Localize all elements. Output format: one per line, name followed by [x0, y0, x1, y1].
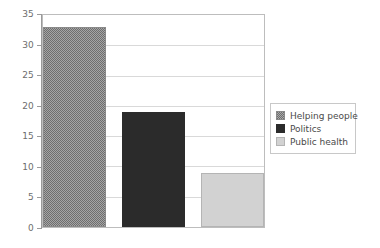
y-tick-mark-25 — [37, 75, 41, 76]
y-tick-label-0: 0 — [0, 224, 34, 233]
legend-swatch-icon-politics — [276, 124, 285, 133]
legend-swatch-icon-helping-people — [276, 111, 285, 120]
y-axis-line — [41, 14, 42, 229]
y-tick-label-25: 25 — [0, 71, 34, 80]
bar-public-health[interactable] — [201, 173, 264, 228]
y-tick-label-30: 30 — [0, 41, 34, 50]
legend-label-helping-people: Helping people — [290, 111, 358, 121]
plot-area — [42, 14, 265, 228]
bar-politics[interactable] — [122, 112, 185, 227]
y-tick-mark-0 — [37, 228, 41, 229]
y-tick-mark-5 — [37, 197, 41, 198]
y-tick-label-35: 35 — [0, 10, 34, 19]
legend-item-politics[interactable]: Politics — [276, 122, 349, 135]
chart-legend: Helping people Politics Public health — [270, 103, 356, 154]
legend-item-helping-people[interactable]: Helping people — [276, 109, 349, 122]
y-tick-mark-10 — [37, 167, 41, 168]
y-tick-label-5: 5 — [0, 193, 34, 202]
legend-label-politics: Politics — [290, 124, 321, 134]
y-tick-mark-20 — [37, 106, 41, 107]
y-tick-label-10: 10 — [0, 163, 34, 172]
legend-swatch-icon-public-health — [276, 137, 285, 146]
y-tick-mark-15 — [37, 136, 41, 137]
bar-chart-figure: 35 30 25 20 15 10 5 0 Helping people Pol… — [0, 0, 380, 248]
y-tick-label-20: 20 — [0, 102, 34, 111]
legend-label-public-health: Public health — [290, 137, 348, 147]
y-tick-mark-30 — [37, 45, 41, 46]
y-tick-mark-35 — [37, 14, 41, 15]
bar-helping-people[interactable] — [43, 27, 106, 227]
y-tick-label-15: 15 — [0, 132, 34, 141]
legend-item-public-health[interactable]: Public health — [276, 135, 349, 148]
